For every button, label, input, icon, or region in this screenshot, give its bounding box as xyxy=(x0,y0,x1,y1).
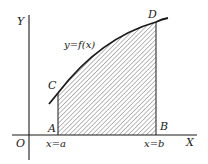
curve-label: y=f(x) xyxy=(63,39,95,50)
x-axis-label: X xyxy=(185,136,195,149)
bound-a-label: x=a xyxy=(46,138,66,149)
point-d-label: D xyxy=(147,8,157,21)
point-a-label: A xyxy=(47,122,56,135)
point-b-label: B xyxy=(159,120,168,133)
point-c-label: C xyxy=(48,79,57,92)
bound-b-label: x=b xyxy=(144,138,164,149)
area-under-curve-diagram: Y X O y=f(x) C D A B x=a x=b xyxy=(0,0,208,164)
origin-label: O xyxy=(16,137,25,150)
y-axis-label: Y xyxy=(17,15,26,28)
